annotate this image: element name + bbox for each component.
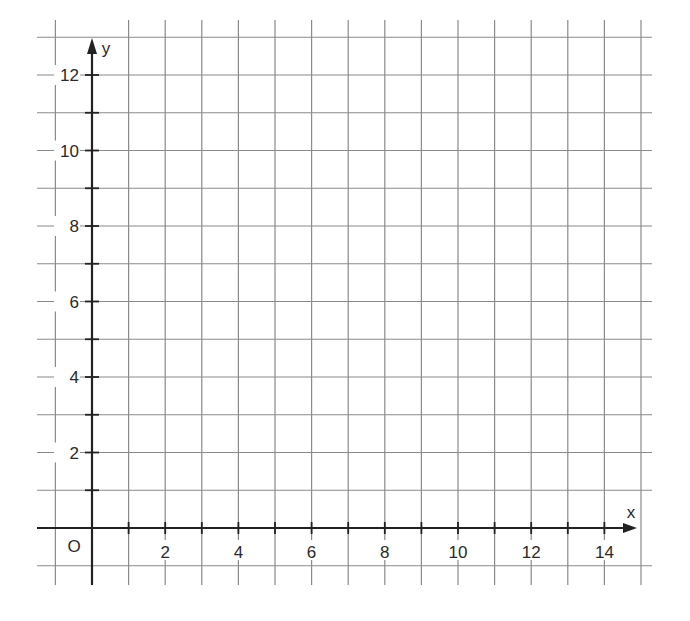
y-tick-label: 8 [70, 217, 79, 236]
x-tick-label: 12 [522, 543, 541, 562]
x-axis-label: x [627, 503, 636, 522]
y-tick-label: 6 [70, 293, 79, 312]
y-tick-label: 4 [70, 368, 79, 387]
coordinate-grid: 246810121424681012xyO [0, 0, 690, 621]
x-tick-label: 2 [160, 543, 169, 562]
x-tick-label: 10 [449, 543, 468, 562]
y-tick-label: 12 [60, 66, 79, 85]
origin-label: O [67, 537, 80, 556]
y-axis-label: y [102, 39, 111, 58]
y-tick-label: 10 [60, 142, 79, 161]
y-tick-label: 2 [70, 444, 79, 463]
y-axis-arrow-icon [87, 38, 97, 54]
x-tick-label: 14 [595, 543, 614, 562]
x-tick-label: 4 [234, 543, 243, 562]
x-tick-label: 8 [380, 543, 389, 562]
x-tick-label: 6 [307, 543, 316, 562]
x-axis-arrow-icon [623, 523, 637, 533]
grid-lines [37, 20, 652, 585]
